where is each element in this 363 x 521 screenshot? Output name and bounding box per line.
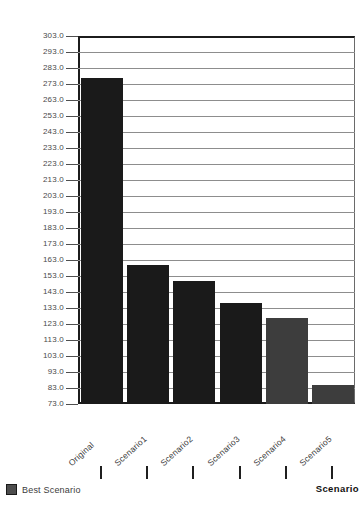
y-axis-tick-mark (66, 356, 78, 357)
y-axis-tick-mark (66, 180, 78, 181)
bar (173, 281, 215, 404)
legend-label-best-scenario: Best Scenario (22, 485, 81, 495)
y-axis-tick-mark (66, 228, 78, 229)
y-axis-tick-mark (66, 372, 78, 373)
x-axis-title: Scenario (316, 483, 359, 494)
plot-area (78, 36, 355, 404)
x-axis-tick-mark (285, 466, 287, 479)
y-axis-tick-mark (66, 164, 78, 165)
bar (312, 385, 354, 404)
y-axis-tick-mark (66, 404, 78, 405)
y-axis-tick-mark (66, 36, 78, 37)
y-axis-tick-mark (66, 324, 78, 325)
y-axis-tick-mark (66, 276, 78, 277)
bar (81, 78, 123, 404)
gridline (78, 68, 355, 69)
y-axis-tick-mark (66, 340, 78, 341)
bar (220, 303, 262, 404)
x-axis-tick-mark (239, 466, 241, 479)
y-axis-tick-mark (66, 100, 78, 101)
y-axis-tick-mark (66, 132, 78, 133)
y-axis-tick-mark (66, 292, 78, 293)
y-axis-tick-mark (66, 68, 78, 69)
y-axis-tick-mark (66, 52, 78, 53)
y-axis-tick-mark (66, 212, 78, 213)
gridline (78, 52, 355, 53)
y-axis-tick-mark (66, 148, 78, 149)
y-axis-tick-mark (66, 388, 78, 389)
y-axis-tick-mark (66, 260, 78, 261)
y-axis-tick-mark (66, 308, 78, 309)
x-axis-tick-mark (146, 466, 148, 479)
y-axis-tick-mark (66, 116, 78, 117)
bar-chart: 303.0293.0283.0273.0263.0253.0243.0233.0… (0, 0, 363, 521)
y-axis-tick-mark (66, 244, 78, 245)
x-axis-tick-mark (331, 466, 333, 479)
y-axis-tick-mark (66, 84, 78, 85)
bar (266, 318, 308, 404)
x-axis-tick-mark (192, 466, 194, 479)
legend-swatch-best-scenario (6, 484, 17, 495)
y-axis-tick-mark (66, 196, 78, 197)
bar (127, 265, 169, 404)
x-axis-tick-mark (100, 466, 102, 479)
legend: Best Scenario (6, 484, 81, 495)
